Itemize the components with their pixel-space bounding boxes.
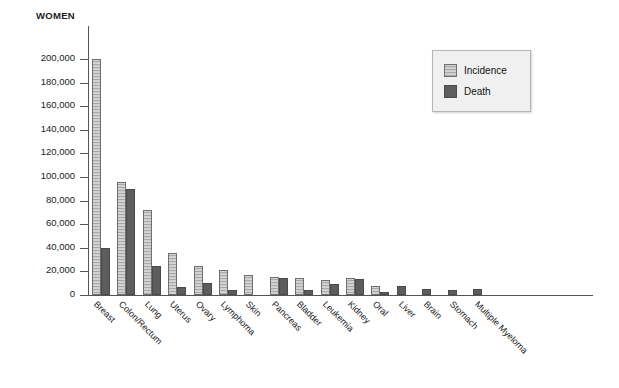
y-axis-tick-label: 160,000 <box>41 99 75 110</box>
y-axis-title: WOMEN <box>36 10 75 21</box>
y-axis-tick-label: 0 <box>70 288 75 299</box>
chart-legend: Incidence Death <box>432 50 531 112</box>
x-axis-label: Skin <box>244 299 263 318</box>
bar-incidence <box>219 270 228 295</box>
bar-group <box>346 26 364 295</box>
y-axis-tick-label: 80,000 <box>46 194 75 205</box>
x-axis-label: Ovary <box>194 299 218 323</box>
bar-incidence <box>321 280 330 295</box>
bar-death <box>448 290 457 295</box>
y-axis-tick-mark <box>80 295 88 296</box>
bar-incidence <box>143 210 152 295</box>
bar-group <box>168 26 186 295</box>
y-axis-tick-mark <box>80 153 88 154</box>
y-axis-tick-label: 40,000 <box>46 241 75 252</box>
bar-incidence <box>194 266 203 296</box>
y-axis-tick-label: 60,000 <box>46 217 75 228</box>
y-axis-tick-mark <box>80 271 88 272</box>
y-axis-tick-label: 20,000 <box>46 264 75 275</box>
bar-death <box>152 266 161 296</box>
y-axis-tick-label: 140,000 <box>41 123 75 134</box>
x-axis-label: Liver <box>397 299 418 320</box>
bar-incidence <box>244 275 253 295</box>
bar-group <box>244 26 253 295</box>
bar-group <box>422 26 431 295</box>
x-axis-label: Breast <box>92 299 117 324</box>
bar-death <box>279 278 288 295</box>
bar-incidence <box>92 59 101 295</box>
y-axis-tick-mark <box>80 83 88 84</box>
x-axis-label: Uterus <box>168 299 194 325</box>
y-axis-tick-label: 180,000 <box>41 76 75 87</box>
bar-group <box>397 26 406 295</box>
bar-death <box>203 283 212 295</box>
x-axis-label: Lung <box>143 299 164 320</box>
bar-group <box>194 26 212 295</box>
legend-item-incidence: Incidence <box>444 64 507 77</box>
bar-chart: WOMEN 200,000180,000160,000140,000120,00… <box>0 0 619 388</box>
y-axis-tick-label: 120,000 <box>41 146 75 157</box>
legend-label-incidence: Incidence <box>464 65 507 76</box>
legend-swatch-incidence-icon <box>444 64 457 77</box>
bar-group <box>92 26 110 295</box>
bar-death <box>177 287 186 295</box>
legend-swatch-death-icon <box>444 85 457 98</box>
bar-group <box>270 26 288 295</box>
y-axis-tick-mark <box>80 248 88 249</box>
x-axis-label: Brain <box>422 299 444 321</box>
bar-incidence <box>270 277 279 295</box>
y-axis-tick-mark <box>80 130 88 131</box>
bar-group <box>143 26 161 295</box>
bar-death <box>304 290 313 295</box>
legend-item-death: Death <box>444 85 491 98</box>
bar-death <box>330 284 339 295</box>
bar-group <box>219 26 237 295</box>
bar-group <box>295 26 313 295</box>
bar-death <box>355 279 364 295</box>
y-axis-tick-label: 200,000 <box>41 52 75 63</box>
bar-incidence <box>346 278 355 295</box>
bar-incidence <box>295 278 304 295</box>
legend-label-death: Death <box>464 86 491 97</box>
y-axis-tick-label: 100,000 <box>41 170 75 181</box>
y-axis-tick-mark <box>80 177 88 178</box>
x-axis-line <box>88 295 593 296</box>
bar-death <box>422 289 431 295</box>
bar-incidence <box>371 286 380 295</box>
bar-death <box>228 290 237 295</box>
y-axis-tick-mark <box>80 59 88 60</box>
bar-group <box>117 26 135 295</box>
x-axis-label: Multiple Myeloma <box>473 299 530 356</box>
bar-group <box>371 26 389 295</box>
bar-death <box>397 286 406 295</box>
bar-death <box>380 292 389 295</box>
bar-death <box>101 248 110 295</box>
bar-death <box>473 289 482 295</box>
bar-incidence <box>117 182 126 295</box>
y-axis-tick-mark <box>80 224 88 225</box>
y-axis-tick-mark <box>80 201 88 202</box>
bar-death <box>126 189 135 295</box>
bar-incidence <box>168 253 177 295</box>
bar-group <box>321 26 339 295</box>
y-axis-tick-mark <box>80 106 88 107</box>
x-axis-label: Oral <box>371 299 390 318</box>
